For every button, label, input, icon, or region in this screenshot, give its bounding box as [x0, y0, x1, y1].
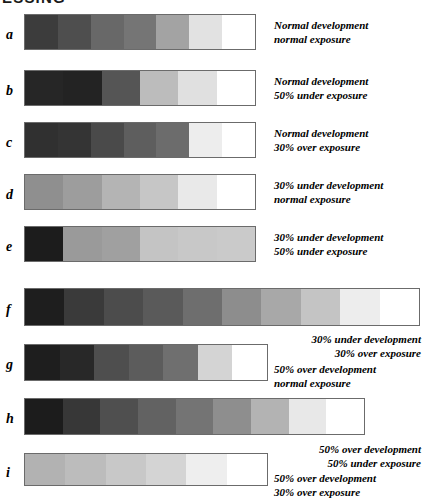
- step-wedge-b: [24, 70, 256, 106]
- caption-line-exposure: 30% over exposure: [255, 347, 421, 361]
- caption-f: 30% under development30% over exposure: [255, 333, 421, 360]
- caption-e: 30% under development50% under exposure: [274, 231, 383, 258]
- caption-line-exposure: normal exposure: [274, 377, 376, 391]
- wedge-step: [25, 399, 63, 434]
- row-label-a: a: [6, 28, 13, 42]
- row-label-e: e: [6, 240, 12, 254]
- row-label-g: g: [6, 358, 13, 372]
- row-label-f: f: [6, 303, 11, 317]
- wedge-step: [251, 399, 289, 434]
- step-wedge-e: [24, 226, 256, 262]
- wedge-step: [140, 71, 178, 105]
- row-label-i: i: [6, 466, 10, 480]
- wedge-step: [232, 345, 267, 380]
- wedge-step: [25, 289, 64, 325]
- wedge-step: [63, 227, 101, 261]
- wedge-step: [63, 399, 101, 434]
- caption-a: Normal developmentnormal exposure: [274, 19, 368, 46]
- wedge-step: [58, 15, 91, 49]
- caption-line-exposure: 30% over exposure: [274, 141, 368, 155]
- caption-d: 30% under developmentnormal exposure: [274, 179, 383, 206]
- wedge-step: [25, 345, 60, 380]
- row-label-d: d: [6, 188, 13, 202]
- caption-line-development: Normal development: [274, 127, 368, 141]
- wedge-step: [91, 15, 124, 49]
- wedge-step: [65, 454, 105, 485]
- wedge-step: [178, 175, 216, 209]
- wedge-step: [301, 289, 340, 325]
- step-wedge-g: [24, 344, 268, 381]
- caption-line-development: 50% over development: [255, 443, 421, 457]
- wedge-step: [25, 71, 63, 105]
- wedge-step: [140, 227, 178, 261]
- row-label-h: h: [6, 412, 14, 426]
- wedge-step: [63, 71, 101, 105]
- wedge-step: [146, 454, 186, 485]
- wedge-step: [326, 399, 364, 434]
- wedge-step: [25, 454, 65, 485]
- step-wedge-f: [24, 288, 420, 326]
- step-wedge-c: [24, 122, 256, 158]
- wedge-step: [106, 454, 146, 485]
- wedge-step: [189, 15, 222, 49]
- caption-line-development: Normal development: [274, 75, 368, 89]
- wedge-step: [289, 399, 327, 434]
- wedge-step: [156, 15, 189, 49]
- wedge-step: [222, 123, 255, 157]
- caption-i: 50% over development30% over exposure: [274, 472, 376, 499]
- wedge-step: [227, 454, 267, 485]
- wedge-step: [186, 454, 226, 485]
- wedge-step: [94, 345, 129, 380]
- wedge-step: [102, 227, 140, 261]
- wedge-step: [58, 123, 91, 157]
- wedge-step: [138, 399, 176, 434]
- wedge-step: [217, 71, 255, 105]
- wedge-step: [178, 71, 216, 105]
- step-wedge-h: [24, 398, 365, 435]
- caption-line-development: 30% under development: [274, 231, 383, 245]
- caption-line-development: Normal development: [274, 19, 368, 33]
- wedge-step: [183, 289, 222, 325]
- wedge-step: [156, 123, 189, 157]
- caption-h: 50% over development50% under exposure: [255, 443, 421, 470]
- caption-c: Normal development30% over exposure: [274, 127, 368, 154]
- caption-line-exposure: 50% under exposure: [274, 245, 383, 259]
- caption-line-development: 30% under development: [274, 179, 383, 193]
- wedge-step: [64, 289, 103, 325]
- wedge-step: [222, 289, 261, 325]
- wedge-step: [63, 175, 101, 209]
- wedge-step: [380, 289, 419, 325]
- caption-line-exposure: normal exposure: [274, 193, 383, 207]
- wedge-step: [261, 289, 300, 325]
- wedge-step: [222, 15, 255, 49]
- wedge-step: [60, 345, 95, 380]
- wedge-step: [340, 289, 379, 325]
- caption-line-development: 50% over development: [274, 472, 376, 486]
- wedge-step: [25, 123, 58, 157]
- wedge-step: [104, 289, 143, 325]
- caption-b: Normal development50% under exposure: [274, 75, 368, 102]
- wedge-step: [198, 345, 233, 380]
- wedge-step: [213, 399, 251, 434]
- wedge-step: [124, 15, 157, 49]
- caption-line-exposure: 50% under exposure: [274, 89, 368, 103]
- wedge-step: [163, 345, 198, 380]
- wedge-step: [91, 123, 124, 157]
- wedge-step: [176, 399, 214, 434]
- wedge-step: [143, 289, 182, 325]
- caption-line-development: 30% under development: [255, 333, 421, 347]
- wedge-step: [189, 123, 222, 157]
- caption-line-exposure: 50% under exposure: [255, 457, 421, 471]
- wedge-step: [102, 175, 140, 209]
- wedge-step: [25, 15, 58, 49]
- row-label-b: b: [6, 84, 13, 98]
- caption-line-exposure: 30% over exposure: [274, 486, 376, 499]
- wedge-step: [102, 71, 140, 105]
- page-title: ESSING: [2, 0, 66, 6]
- step-wedge-i: [24, 453, 268, 486]
- step-wedge-a: [24, 14, 256, 50]
- wedge-step: [217, 175, 255, 209]
- wedge-step: [217, 227, 255, 261]
- wedge-step: [124, 123, 157, 157]
- row-label-c: c: [6, 136, 12, 150]
